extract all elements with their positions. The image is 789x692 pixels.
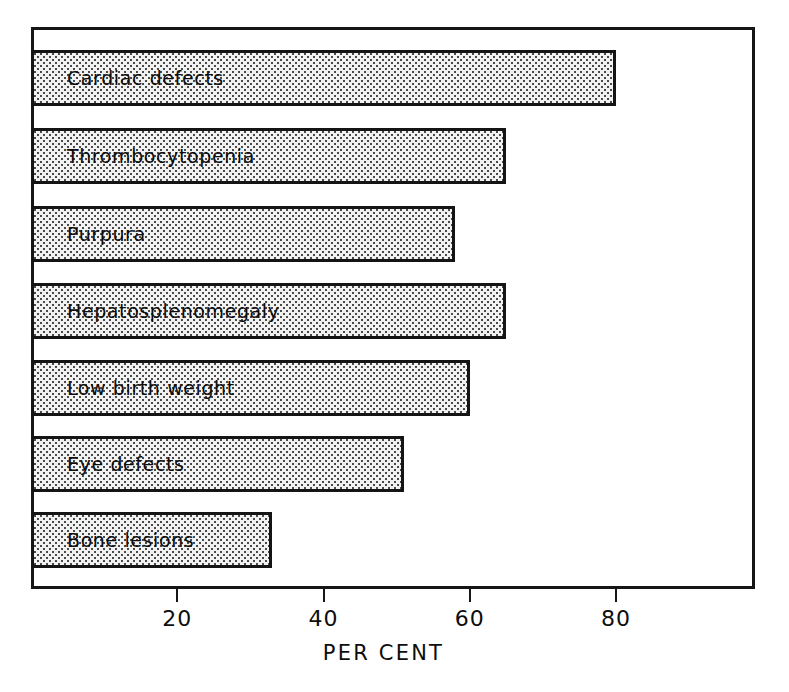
bar-label: Hepatosplenomegaly (67, 302, 280, 321)
bar-label: Cardiac defects (67, 69, 224, 88)
bar-label: Purpura (67, 225, 146, 244)
axis-tick (615, 589, 617, 602)
x-axis-title: PER CENT (0, 641, 789, 665)
bars-layer: Cardiac defects Thrombocytopenia Purpura… (31, 27, 755, 589)
axis-tick (323, 589, 325, 602)
axis-tick (469, 589, 471, 602)
bar-label: Low birth weight (67, 379, 235, 398)
axis-tick-label: 80 (601, 606, 631, 631)
axis-tick (176, 589, 178, 602)
bar-label: Bone lesions (67, 531, 194, 550)
bar-chart: Cardiac defects Thrombocytopenia Purpura… (0, 0, 789, 692)
bar-label: Thrombocytopenia (67, 147, 255, 166)
x-axis-title-text: PER CENT (323, 641, 444, 665)
axis-tick-label: 20 (162, 606, 192, 631)
axis-tick-label: 60 (455, 606, 485, 631)
axis-tick-label: 40 (309, 606, 339, 631)
x-axis: 20 40 60 80 (31, 589, 755, 605)
bar-label: Eye defects (67, 455, 185, 474)
